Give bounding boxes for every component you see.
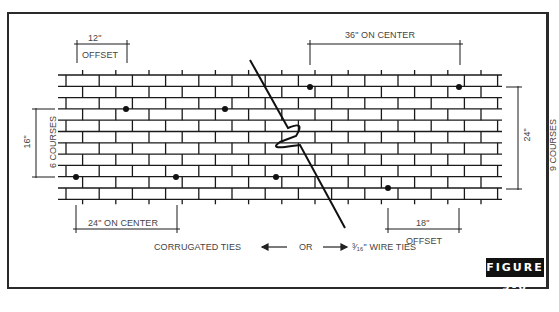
- dim-top-left-note: OFFSET: [82, 50, 118, 60]
- break-line-icon: [250, 60, 345, 228]
- dim-bottom-right-value: 18": [416, 218, 430, 228]
- legend-corrugated-ties: CORRUGATED TIES: [154, 242, 241, 252]
- dim-top-left-value: 12": [88, 33, 102, 43]
- tie-markers: [73, 84, 462, 191]
- dimension-lines: [32, 40, 522, 233]
- dim-top-right-value: 36" ON CENTER: [345, 30, 415, 40]
- brick-wall-diagram: [0, 0, 559, 312]
- brick-courses: [58, 70, 502, 204]
- dim-right-value: 24": [522, 128, 532, 141]
- dim-left-value: 16": [22, 135, 32, 148]
- legend-wire-ties: ³⁄₁₆" WIRE TIES: [352, 242, 416, 252]
- dim-left-note: 6 COURSES: [48, 116, 58, 168]
- arrow-left-icon: [262, 244, 287, 250]
- dim-bottom-left-value: 24" ON CENTER: [88, 218, 158, 228]
- arrow-right-icon: [323, 244, 347, 250]
- figure-tag: FIGURE 9-6: [486, 258, 544, 277]
- dim-right-note: 9 COURSES: [548, 119, 558, 171]
- legend-or: OR: [299, 242, 313, 252]
